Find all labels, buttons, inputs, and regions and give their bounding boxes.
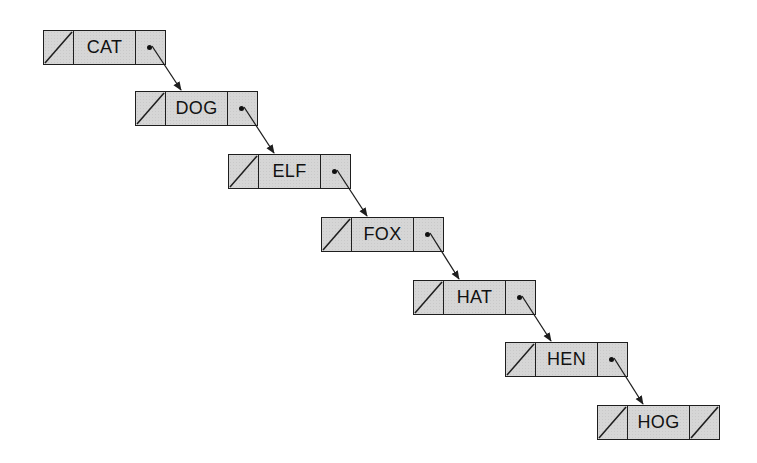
next-pointer-cell	[414, 218, 443, 251]
node-data-cell: DOG	[166, 92, 228, 125]
linked-list-diagram: CAT DOG ELF FOX	[0, 0, 757, 463]
node-data-cell: ELF	[259, 155, 321, 188]
null-slash-icon	[414, 281, 443, 314]
null-slash-icon	[322, 218, 351, 251]
node-data-cell: CAT	[74, 31, 136, 64]
null-prev-cell	[229, 155, 259, 188]
pointer-dot-icon	[609, 357, 614, 362]
null-prev-cell	[44, 31, 74, 64]
null-next-cell	[690, 406, 719, 439]
null-slash-icon	[44, 31, 73, 64]
null-slash-icon	[229, 155, 258, 188]
null-slash-icon	[690, 406, 719, 439]
node-data-cell: HAT	[444, 281, 506, 314]
next-pointer-cell	[598, 343, 627, 376]
list-node-elf: ELF	[228, 154, 351, 189]
next-pointer-cell	[228, 92, 257, 125]
list-node-hat: HAT	[413, 280, 536, 315]
null-prev-cell	[506, 343, 536, 376]
list-node-cat: CAT	[43, 30, 166, 65]
null-slash-icon	[136, 92, 165, 125]
null-prev-cell	[598, 406, 628, 439]
pointer-dot-icon	[239, 106, 244, 111]
null-slash-icon	[506, 343, 535, 376]
list-node-dog: DOG	[135, 91, 258, 126]
next-pointer-cell	[136, 31, 165, 64]
null-slash-icon	[598, 406, 627, 439]
next-pointer-cell	[321, 155, 350, 188]
node-data-cell: HOG	[628, 406, 690, 439]
node-data-cell: HEN	[536, 343, 598, 376]
list-node-hog: HOG	[597, 405, 720, 440]
list-node-hen: HEN	[505, 342, 628, 377]
pointer-dot-icon	[332, 169, 337, 174]
node-data-cell: FOX	[352, 218, 414, 251]
null-prev-cell	[414, 281, 444, 314]
null-prev-cell	[322, 218, 352, 251]
pointer-dot-icon	[425, 232, 430, 237]
pointer-dot-icon	[147, 45, 152, 50]
null-prev-cell	[136, 92, 166, 125]
pointer-dot-icon	[517, 295, 522, 300]
list-node-fox: FOX	[321, 217, 444, 252]
next-pointer-cell	[506, 281, 535, 314]
